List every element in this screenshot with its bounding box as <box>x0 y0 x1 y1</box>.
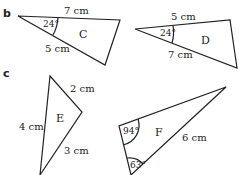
triangle-name: D <box>201 35 210 46</box>
triangle-name: C <box>79 29 87 40</box>
triangle-d <box>135 20 237 68</box>
triangle-exercise: b c 7 cm 24° C 5 cm 5 cm 24° D 7 cm 2 cm… <box>0 0 239 175</box>
side-label: 4 cm <box>19 122 44 132</box>
angle-label: 24° <box>160 29 176 38</box>
angle-label: 63° <box>130 161 146 170</box>
part-label-b: b <box>3 8 11 19</box>
triangle-name: F <box>155 127 163 138</box>
side-label: 6 cm <box>182 133 207 143</box>
angle-label: 24° <box>43 20 59 29</box>
angle-label: 94° <box>123 127 139 136</box>
side-label: 7 cm <box>64 6 89 16</box>
side-label: 5 cm <box>45 44 70 54</box>
triangle-name: E <box>56 113 64 124</box>
triangle-drawings <box>0 0 239 175</box>
triangle-c <box>18 16 120 65</box>
part-label-c: c <box>3 68 10 79</box>
side-label: 7 cm <box>168 50 193 60</box>
side-label: 3 cm <box>64 146 89 156</box>
side-label: 5 cm <box>171 12 196 22</box>
side-label: 2 cm <box>70 84 95 94</box>
